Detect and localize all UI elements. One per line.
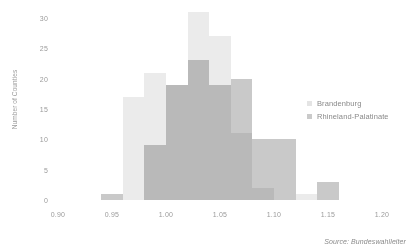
y-tick-label: 10	[40, 136, 48, 143]
histogram-chart: Number of Counties 051015202530 0.900.95…	[0, 0, 414, 251]
x-tick-label: 1.05	[213, 211, 227, 218]
histogram-bar	[144, 145, 166, 200]
y-axis-title: Number of Counties	[11, 45, 18, 155]
y-tick-label: 30	[40, 15, 48, 22]
x-tick-label: 0.95	[105, 211, 119, 218]
x-tick-label: 1.10	[267, 211, 281, 218]
legend-item-brandenburg[interactable]: Brandenburg	[307, 99, 389, 108]
x-tick-label: 1.20	[375, 211, 389, 218]
histogram-bar	[209, 85, 231, 200]
histogram-bar	[274, 139, 296, 200]
histogram-bar	[317, 182, 339, 200]
legend-swatch-icon	[307, 101, 312, 106]
x-axis: 0.900.951.001.051.101.151.20	[0, 200, 414, 226]
legend-item-rhineland-palatinate[interactable]: Rhineland-Palatinate	[307, 112, 389, 121]
legend: Brandenburg Rhineland-Palatinate	[307, 99, 389, 125]
x-tick-label: 1.00	[159, 211, 173, 218]
legend-label: Brandenburg	[317, 99, 361, 108]
source-note: Source: Bundeswahlleiter	[324, 238, 406, 245]
histogram-bar	[166, 85, 188, 200]
y-tick-label: 5	[44, 166, 48, 173]
legend-label: Rhineland-Palatinate	[317, 112, 389, 121]
histogram-bar	[231, 79, 253, 200]
histogram-bar	[252, 139, 274, 200]
x-tick-label: 1.15	[321, 211, 335, 218]
x-tick-label: 0.90	[51, 211, 65, 218]
legend-swatch-icon	[307, 114, 312, 119]
y-tick-label: 25	[40, 45, 48, 52]
y-tick-label: 20	[40, 75, 48, 82]
y-tick-label: 15	[40, 106, 48, 113]
histogram-bar	[188, 60, 210, 200]
